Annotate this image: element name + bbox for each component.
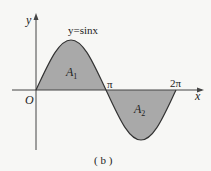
tick-2pi-label: 2π [170, 77, 182, 89]
y-axis-arrow-icon [34, 13, 39, 20]
sine-area-diagram: y x O y=sinx π 2π A1 A2 ( b ) [0, 0, 211, 171]
y-axis-label: y [25, 13, 32, 27]
figure-caption: ( b ) [94, 154, 113, 167]
origin-label: O [25, 93, 34, 107]
tick-pi-label: π [107, 78, 113, 90]
x-axis-label: x [194, 89, 201, 103]
function-label: y=sinx [68, 24, 99, 36]
